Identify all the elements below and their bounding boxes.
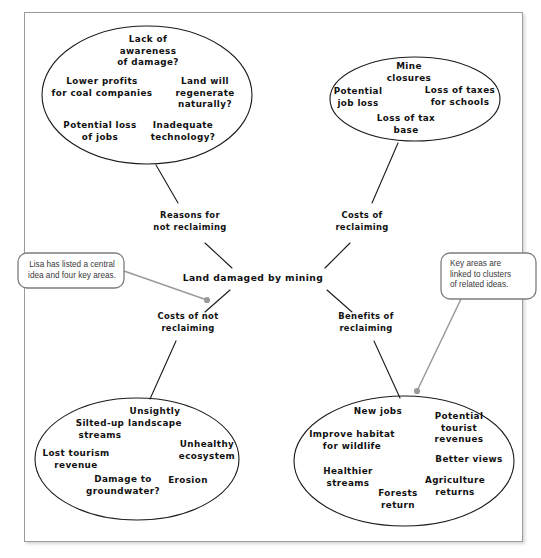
idea-improve-habitat-for-wildlife[interactable]: Improve habitat for wildlife <box>309 429 395 452</box>
idea-unsightly-landscape[interactable]: Unsightly landscape <box>128 406 182 429</box>
idea-agriculture-returns[interactable]: Agriculture returns <box>425 475 485 498</box>
idea-forests-return[interactable]: Forests return <box>378 488 417 511</box>
idea-damage-to-groundwater[interactable]: Damage to groundwater? <box>86 474 160 497</box>
idea-mine-closures[interactable]: Mine closures <box>387 61 432 84</box>
idea-erosion[interactable]: Erosion <box>168 475 208 487</box>
idea-lost-tourism-revenue[interactable]: Lost tourism revenue <box>42 448 109 471</box>
key-area-benefits-reclaiming[interactable]: Benefits of reclaiming <box>338 311 393 334</box>
key-area-reasons-not-reclaiming[interactable]: Reasons for not reclaiming <box>153 210 226 233</box>
idea-loss-of-taxes-for-schools[interactable]: Loss of taxes for schools <box>425 85 495 108</box>
idea-potential-tourist-revenues[interactable]: Potential tourist revenues <box>418 411 500 446</box>
idea-lack-of-awareness[interactable]: Lack of awareness of damage? <box>117 34 179 69</box>
idea-healthier-streams[interactable]: Healthier streams <box>323 466 373 489</box>
idea-loss-of-tax-base[interactable]: Loss of tax base <box>377 113 435 136</box>
callout-key-areas-text: Key areas are linked to clusters of rela… <box>450 259 530 291</box>
concept-map-canvas: Land damaged by mining Reasons for not r… <box>0 0 541 558</box>
idea-new-jobs[interactable]: New jobs <box>354 406 402 418</box>
idea-potential-job-loss[interactable]: Potential job loss <box>334 86 383 109</box>
idea-land-will-regenerate[interactable]: Land will regenerate naturally? <box>175 76 234 111</box>
idea-inadequate-technology[interactable]: Inadequate technology? <box>151 120 216 143</box>
idea-better-views[interactable]: Better views <box>435 454 502 466</box>
idea-unhealthy-ecosystem[interactable]: Unhealthy ecosystem <box>179 439 235 462</box>
key-area-costs-reclaiming[interactable]: Costs of reclaiming <box>335 210 388 233</box>
idea-lower-profits-coal-companies[interactable]: Lower profits for coal companies <box>52 76 153 99</box>
key-area-costs-not-reclaiming[interactable]: Costs of not reclaiming <box>157 311 218 334</box>
central-idea-label[interactable]: Land damaged by mining <box>183 272 324 284</box>
callout-central-idea-text: Lisa has listed a central idea and four … <box>25 260 119 281</box>
idea-potential-loss-of-jobs[interactable]: Potential loss of jobs <box>63 120 136 143</box>
idea-silted-up-streams[interactable]: Silted-up streams <box>76 418 125 441</box>
